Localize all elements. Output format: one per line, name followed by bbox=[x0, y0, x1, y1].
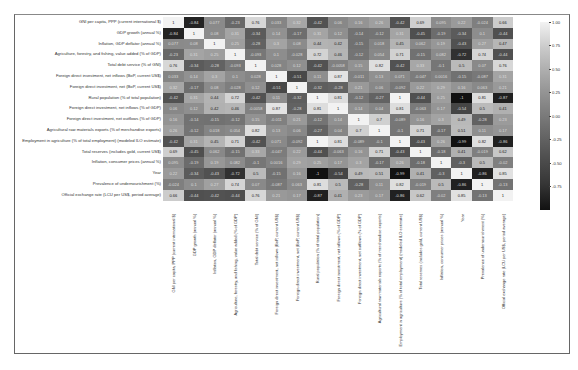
heatmap-cell: -0.87 bbox=[307, 190, 328, 201]
heatmap-cell: 0.16 bbox=[348, 17, 369, 28]
heatmap-cell: 0.25 bbox=[431, 93, 452, 104]
column-label-slot: Foreign direct investment, net (BoP, cur… bbox=[287, 214, 308, 354]
heatmap-cell: -0.089 bbox=[348, 136, 369, 147]
heatmap-cell: -0.44 bbox=[184, 190, 205, 201]
column-label: Foreign direct investment, net (BoP, cur… bbox=[294, 214, 299, 301]
heatmap-cell: 0.06 bbox=[369, 82, 390, 93]
heatmap-cell: 0.71 bbox=[369, 147, 390, 158]
heatmap-cell: 0.44 bbox=[307, 39, 328, 50]
heatmap-cell: -0.019 bbox=[410, 179, 431, 190]
heatmap-cell: -0.42 bbox=[163, 136, 184, 147]
heatmap-cell: -0.32 bbox=[287, 93, 308, 104]
heatmap-cell: 0.06 bbox=[163, 103, 184, 114]
heatmap-cell: 0.31 bbox=[184, 136, 205, 147]
heatmap-cell: -0.42 bbox=[245, 136, 266, 147]
heatmap-cell: -0.86 bbox=[451, 179, 472, 190]
heatmap-cell: 1 bbox=[307, 93, 328, 104]
heatmap-cell: 0.87 bbox=[266, 103, 287, 114]
heatmap-cell: -0.024 bbox=[472, 17, 493, 28]
heatmap-cell: 0.11 bbox=[472, 125, 493, 136]
heatmap-cell: -0.34 bbox=[184, 168, 205, 179]
heatmap-cell: 0.16 bbox=[451, 82, 472, 93]
heatmap-cell: -0.18 bbox=[410, 157, 431, 168]
heatmap-cell: 0.87 bbox=[328, 71, 349, 82]
row-label: Total debt service (% of GNI) bbox=[14, 60, 164, 71]
heatmap-cell: 0.5 bbox=[328, 179, 349, 190]
heatmap-cell: 0.74 bbox=[472, 49, 493, 60]
heatmap-cell: 0.17 bbox=[328, 157, 349, 168]
heatmap-cell: 1 bbox=[163, 17, 184, 28]
heatmap-cell: 0.3 bbox=[431, 114, 452, 125]
heatmap-cell: -0.44 bbox=[493, 28, 514, 39]
heatmap-cell: -0.42 bbox=[307, 60, 328, 71]
heatmap-cell: -0.84 bbox=[184, 17, 205, 28]
heatmap-cell: 0.08 bbox=[204, 28, 225, 39]
row-label: Foreign direct investment, net inflows (… bbox=[14, 71, 164, 82]
heatmap-cell: -0.14 bbox=[348, 28, 369, 39]
heatmap-cell: 1 bbox=[390, 93, 411, 104]
heatmap-cell: 0.32 bbox=[287, 17, 308, 28]
heatmap-cell: -0.42 bbox=[204, 190, 225, 201]
heatmap-cell: 0.11 bbox=[307, 71, 328, 82]
heatmap-cell: -0.3 bbox=[451, 157, 472, 168]
heatmap-cell: -0.028 bbox=[225, 82, 246, 93]
column-label-slot: Inflation, consumer prices (annual %) bbox=[431, 214, 452, 354]
heatmap-cell: -0.12 bbox=[307, 114, 328, 125]
heatmap-cell: -0.86 bbox=[493, 136, 514, 147]
column-label: Inflation, GDP deflator (annual %) bbox=[212, 214, 217, 274]
heatmap-cell: 0.41 bbox=[328, 190, 349, 201]
heatmap-cell: 0.028 bbox=[245, 71, 266, 82]
column-label-slot: Agricultural raw materials exports (% of… bbox=[369, 214, 390, 354]
heatmap-cell: 0.21 bbox=[348, 82, 369, 93]
heatmap-cell: 0.071 bbox=[266, 136, 287, 147]
heatmap-cell: -0.17 bbox=[431, 125, 452, 136]
heatmap-cell: 0.12 bbox=[245, 82, 266, 93]
heatmap-cell: -0.44 bbox=[493, 49, 514, 60]
heatmap-cell: -0.089 bbox=[390, 114, 411, 125]
column-label-slot: GDP growth (annual %) bbox=[184, 214, 205, 354]
column-label: Foreign direct investment, net inflows (… bbox=[274, 214, 279, 314]
column-label: Foreign direct investment, net inflows (… bbox=[336, 214, 341, 302]
heatmap-cell: -0.44 bbox=[307, 147, 328, 158]
heatmap-cell: 0.06 bbox=[328, 17, 349, 28]
heatmap-cell: 0.42 bbox=[204, 103, 225, 114]
heatmap-cell: 1 bbox=[328, 103, 349, 114]
heatmap-cell: 0.082 bbox=[431, 49, 452, 60]
heatmap-cell: 0.082 bbox=[225, 157, 246, 168]
heatmap-cell: 0.077 bbox=[163, 39, 184, 50]
heatmap-cell: 0.062 bbox=[410, 39, 431, 50]
heatmap-cell: -0.0058 bbox=[328, 60, 349, 71]
heatmap-cell: 0.27 bbox=[204, 179, 225, 190]
heatmap-cell: -0.45 bbox=[410, 28, 431, 39]
heatmap-cell: -0.44 bbox=[225, 190, 246, 201]
column-label: Year bbox=[459, 214, 464, 222]
column-label: Agriculture, forestry, and fishing, valu… bbox=[233, 214, 238, 316]
heatmap-cell: 0.71 bbox=[410, 125, 431, 136]
heatmap-cell: 0.62 bbox=[410, 190, 431, 201]
heatmap-cell: 0.45 bbox=[390, 39, 411, 50]
heatmap-cell: 0.11 bbox=[369, 179, 390, 190]
heatmap-cell: -0.1 bbox=[245, 157, 266, 168]
heatmap-cell: 0.08 bbox=[184, 39, 205, 50]
heatmap-cell: 0.16 bbox=[348, 147, 369, 158]
heatmap-cell: 0.85 bbox=[493, 168, 514, 179]
heatmap-cell: 0.17 bbox=[287, 190, 308, 201]
heatmap-cell: -0.99 bbox=[390, 168, 411, 179]
heatmap-cell: 0.062 bbox=[204, 147, 225, 158]
heatmap-cell: 0.16 bbox=[163, 114, 184, 125]
heatmap-cell: 0.095 bbox=[431, 17, 452, 28]
row-label: Foreign direct investment, net inflows (… bbox=[14, 103, 164, 114]
row-labels: GNI per capita, PPP (current internation… bbox=[14, 17, 164, 201]
row-label: Inflation, GDP deflator (annual %) bbox=[14, 39, 164, 50]
heatmap-cell: 0.13 bbox=[369, 71, 390, 82]
heatmap-cell: -0.15 bbox=[451, 71, 472, 82]
heatmap-cell: -1 bbox=[451, 93, 472, 104]
heatmap-cell: 0.85 bbox=[451, 190, 472, 201]
heatmap-cell: 0.72 bbox=[307, 49, 328, 60]
heatmap-cell: 0.23 bbox=[348, 190, 369, 201]
heatmap-cell: -0.28 bbox=[204, 60, 225, 71]
heatmap-cell: 0.29 bbox=[431, 82, 452, 93]
heatmap-cell: 0.31 bbox=[390, 28, 411, 39]
heatmap-cell: 0.26 bbox=[163, 125, 184, 136]
heatmap-cell: -0.84 bbox=[163, 28, 184, 39]
